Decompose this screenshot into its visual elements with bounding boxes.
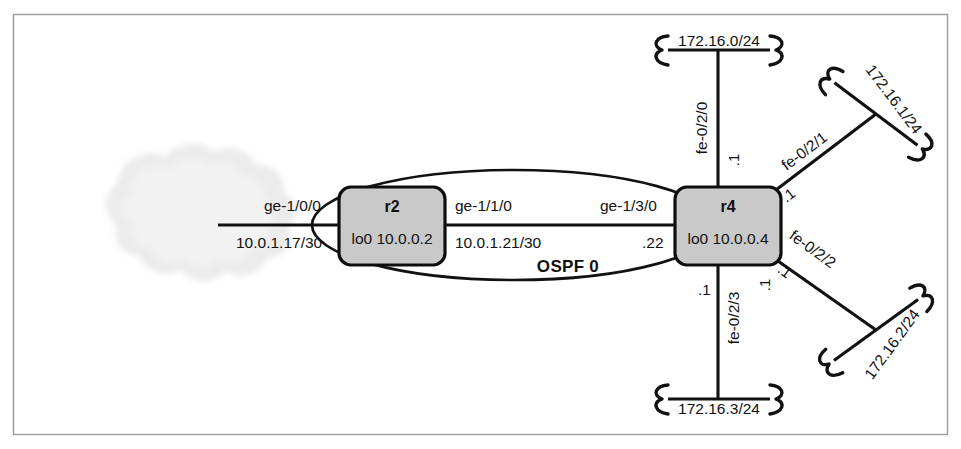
router-r2[interactable]: r2 lo0 10.0.0.2 [339, 187, 445, 265]
label-fe-0-2-2: fe-0/2/2 [787, 227, 840, 272]
label-fe-0-2-3: fe-0/2/3 [725, 292, 742, 345]
label-172-16-0-24: 172.16.0/24 [678, 32, 760, 49]
router-r4-name: r4 [720, 198, 735, 215]
network-topology-figure: r2 lo0 10.0.0.2 r4 lo0 10.0.0.4 ge-1/0/0… [0, 0, 961, 449]
label-10-0-1-21-30: 10.0.1.21/30 [455, 234, 542, 251]
label-lan-bottom-dot-1: .1 [756, 279, 773, 292]
label-fe-0-2-0: fe-0/2/0 [693, 101, 710, 154]
label-dot-22: .22 [642, 234, 664, 251]
router-r4-loopback: lo0 10.0.0.4 [687, 230, 768, 247]
label-10-0-1-17-30: 10.0.1.17/30 [236, 234, 323, 251]
label-ge-1-3-0: ge-1/3/0 [600, 197, 657, 214]
label-172-16-3-24: 172.16.3/24 [678, 400, 760, 417]
router-r2-loopback: lo0 10.0.0.2 [351, 230, 432, 247]
router-r2-name: r2 [384, 198, 399, 215]
label-lan-lower-right-dot-1: .1 [775, 260, 795, 281]
label-ge-1-0-0: ge-1/0/0 [264, 197, 321, 214]
label-ospf-lower-dot-1: .1 [698, 281, 711, 298]
label-ge-1-1-0: ge-1/1/0 [455, 197, 512, 214]
label-lan-top-dot-1: .1 [725, 154, 742, 167]
router-r4[interactable]: r4 lo0 10.0.0.4 [675, 187, 781, 265]
label-ospf-area: OSPF 0 [537, 257, 599, 276]
